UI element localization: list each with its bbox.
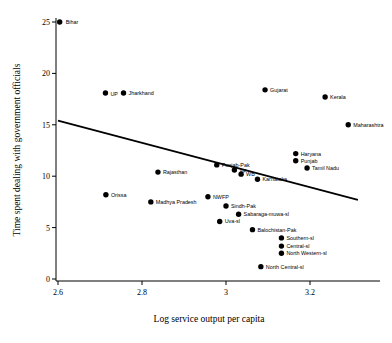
axes-group: 05101520252.62.833.2	[42, 18, 380, 297]
data-point-marker	[238, 171, 243, 176]
data-point-marker	[250, 227, 255, 232]
y-axis-tick-label: 15	[42, 121, 50, 130]
data-point-label: Madhya Pradesh	[156, 199, 197, 205]
data-point-marker	[236, 212, 241, 217]
data-point: Orissa	[103, 192, 126, 198]
data-point-label: North Western-sl	[286, 250, 326, 256]
y-axis-tick-label: 25	[42, 18, 50, 27]
data-point-marker	[346, 122, 351, 127]
y-axis-tick-label: 5	[46, 224, 50, 233]
data-point-marker	[322, 94, 327, 99]
data-point-marker	[217, 219, 222, 224]
data-point-marker	[57, 19, 62, 24]
y-axis-tick-label: 10	[42, 172, 50, 181]
data-point: Jharkhand	[121, 90, 154, 96]
data-point: Southern-sl	[279, 235, 314, 241]
data-point: Punjab	[293, 158, 317, 164]
x-axis-tick-label: 3.2	[305, 288, 315, 297]
data-point-label: Balochistan-Pak	[257, 227, 296, 233]
data-point-label: Tamil Nadu	[312, 165, 339, 171]
data-point-label: Rajasthan	[163, 169, 187, 175]
data-point-label: UP	[110, 91, 118, 97]
y-axis-tick-label: 0	[46, 275, 50, 284]
x-axis-tick-label: 2.8	[137, 288, 147, 297]
data-point-label: Maharashtra	[353, 122, 383, 128]
data-point: WB	[238, 171, 255, 177]
data-point-label: Sabaraga-muwa-sl	[244, 211, 289, 217]
data-point-label: Orissa	[111, 192, 127, 198]
data-point-marker	[155, 169, 160, 174]
data-point-label: Karnataka	[263, 176, 288, 182]
data-points-group: BiharUPJharkhandGujaratKeralaMaharashtra…	[57, 19, 384, 270]
data-point-label: Sindh-Pak	[231, 203, 256, 209]
data-point-label: Haryana	[301, 151, 321, 157]
data-point-label: Kerala	[330, 94, 346, 100]
y-axis-tick-label: 20	[42, 69, 50, 78]
data-point-marker	[205, 194, 210, 199]
data-point-label: Jharkhand	[129, 90, 154, 96]
data-point: Rajasthan	[155, 169, 187, 175]
data-point: UP	[103, 90, 119, 96]
data-point: Central-sl	[279, 243, 310, 249]
data-point: Kerala	[322, 94, 345, 100]
data-point: Sabaraga-muwa-sl	[236, 211, 289, 217]
data-point: Bihar	[57, 19, 78, 25]
data-point-label: Punjab	[301, 158, 318, 164]
data-point-marker	[255, 177, 260, 182]
scatter-chart: 05101520252.62.833.2 BiharUPJharkhandGuj…	[0, 0, 392, 343]
x-axis-tick-label: 2.6	[53, 288, 63, 297]
data-point: Gujarat	[262, 87, 288, 93]
data-point: Uva-sl	[217, 218, 240, 224]
data-point: Balochistan-Pak	[250, 227, 297, 233]
data-point-label: Gujarat	[270, 87, 288, 93]
x-axis-title: Log service output per capita	[154, 314, 266, 324]
data-point-label: NWFP	[213, 194, 229, 200]
x-axis-tick-label: 3	[224, 288, 228, 297]
data-point-marker	[148, 199, 153, 204]
data-point-label: Uva-sl	[225, 218, 240, 224]
data-point: North Central-sl	[258, 264, 303, 270]
data-point-marker	[223, 203, 228, 208]
data-point: North Western-sl	[279, 250, 327, 256]
y-axis-title: Time spent dealing with government offic…	[12, 63, 22, 236]
data-point: Sindh-Pak	[223, 203, 256, 209]
data-point-marker	[103, 192, 108, 197]
data-point-label: North Central-sl	[266, 264, 304, 270]
data-point-marker	[103, 90, 108, 95]
data-point: Madhya Pradesh	[148, 199, 196, 205]
data-point-marker	[279, 243, 284, 248]
chart-canvas: 05101520252.62.833.2 BiharUPJharkhandGuj…	[0, 0, 392, 343]
data-point-label: Bihar	[66, 19, 79, 25]
data-point-marker	[214, 162, 219, 167]
data-point-label: Central-sl	[286, 243, 309, 249]
data-point: Haryana	[293, 151, 321, 157]
data-point-marker	[232, 167, 237, 172]
data-point-marker	[293, 151, 298, 156]
data-point-marker	[262, 87, 267, 92]
data-point: NWFP	[205, 194, 229, 200]
data-point: Karnataka	[255, 176, 287, 182]
data-point: Maharashtra	[346, 122, 384, 128]
data-point-label: WB	[246, 171, 255, 177]
data-point-label: Southern-sl	[286, 235, 314, 241]
data-point-marker	[279, 235, 284, 240]
data-point-marker	[121, 90, 126, 95]
data-point-marker	[304, 165, 309, 170]
data-point-marker	[293, 158, 298, 163]
data-point: Tamil Nadu	[304, 165, 339, 171]
data-point-marker	[258, 264, 263, 269]
data-point-marker	[279, 251, 284, 256]
